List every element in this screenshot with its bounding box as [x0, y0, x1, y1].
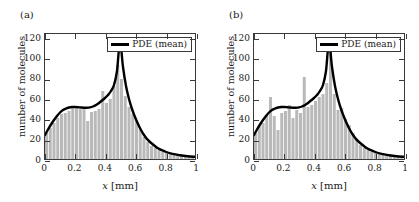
x-tick-mark: [254, 34, 255, 39]
histogram-bar: [262, 123, 265, 159]
histogram-bar: [288, 105, 291, 159]
histogram-bar: [109, 99, 112, 159]
y-tick-mark: [190, 59, 195, 60]
y-tick-labels-b: 020406080100120: [209, 33, 250, 160]
y-tick-label: 80: [1, 74, 41, 83]
histogram-bar: [83, 109, 86, 159]
x-axis-var-a: x: [102, 180, 108, 191]
histogram-bar: [280, 113, 283, 159]
chart-svg-a: [45, 34, 195, 159]
y-tick-label: 120: [1, 34, 41, 43]
histogram-bar: [265, 115, 268, 159]
histogram-bar: [322, 94, 325, 159]
histogram-bar: [86, 121, 89, 159]
y-tick-mark: [254, 100, 259, 101]
histogram-bar: [143, 137, 146, 159]
y-tick-mark: [399, 120, 404, 121]
x-tick-mark: [376, 154, 377, 159]
x-axis-var-b: x: [311, 180, 317, 191]
histogram-bar: [79, 109, 82, 159]
y-tick-label: 20: [1, 135, 41, 144]
x-tick-mark: [197, 34, 198, 39]
y-tick-mark: [254, 141, 259, 142]
chart-svg-b: [254, 34, 404, 159]
histogram-bar: [292, 118, 295, 159]
histogram-bar: [310, 105, 313, 159]
x-tick-mark: [45, 34, 46, 39]
x-tick-mark: [136, 154, 137, 159]
panel-a: (a) number of molecules 020406080100120 …: [0, 0, 210, 202]
histogram-bar: [367, 150, 370, 159]
histogram-bar: [105, 103, 108, 159]
plot-area-b: PDE (mean): [253, 33, 405, 160]
histogram-bar: [359, 145, 362, 159]
y-tick-mark: [399, 100, 404, 101]
x-tick-mark: [315, 34, 316, 39]
y-tick-mark: [190, 120, 195, 121]
histogram-bar: [120, 79, 123, 159]
histogram-bar: [113, 86, 116, 159]
histogram-bar: [131, 114, 134, 159]
histogram-bar: [378, 154, 381, 159]
histogram-bar: [64, 113, 67, 159]
histogram-bar: [284, 111, 287, 159]
y-tick-mark: [254, 59, 259, 60]
panel-b: (b) number of molecules 020406080100120 …: [209, 0, 419, 202]
histogram-bar: [71, 107, 74, 159]
histogram-bar: [258, 126, 261, 159]
y-tick-mark: [399, 59, 404, 60]
x-tick-mark: [284, 34, 285, 39]
y-tick-mark: [45, 59, 50, 60]
histogram-bar: [53, 123, 56, 159]
y-tick-label: 40: [210, 115, 250, 124]
histogram-bar: [75, 106, 78, 159]
y-tick-label: 40: [1, 115, 41, 124]
histogram-bar: [295, 110, 298, 159]
histogram-bar: [307, 107, 310, 159]
x-tick-mark: [197, 154, 198, 159]
y-tick-label: 80: [210, 74, 250, 83]
x-tick-mark: [75, 34, 76, 39]
x-axis-unit-a: [mm]: [111, 180, 138, 191]
legend-line-swatch-b: [320, 43, 338, 45]
histogram-bar: [68, 111, 71, 159]
x-tick-mark: [315, 154, 316, 159]
histogram-bar: [90, 112, 93, 159]
y-tick-mark: [45, 39, 50, 40]
legend-line-swatch-a: [111, 43, 129, 45]
x-axis-title-b: x [mm]: [253, 180, 405, 191]
y-tick-labels-a: 020406080100120: [0, 33, 41, 160]
histogram-bar: [277, 130, 280, 159]
y-tick-label: 100: [1, 54, 41, 63]
x-tick-mark: [167, 154, 168, 159]
x-tick-mark: [106, 34, 107, 39]
y-tick-mark: [190, 39, 195, 40]
y-tick-mark: [45, 80, 50, 81]
y-tick-label: 20: [210, 135, 250, 144]
histogram-bar: [363, 148, 366, 159]
histogram-bar: [355, 140, 358, 159]
x-axis-title-a: x [mm]: [44, 180, 196, 191]
legend-a: PDE (mean): [107, 37, 192, 52]
histogram-bar: [128, 107, 131, 159]
x-tick-labels-b: 00.20.40.60.81: [253, 164, 405, 176]
histogram-bar: [56, 118, 59, 159]
histogram-bar: [303, 77, 306, 159]
y-tick-mark: [45, 161, 50, 162]
histogram-bar: [60, 114, 63, 159]
histogram-bar: [337, 110, 340, 159]
plot-area-a: PDE (mean): [44, 33, 196, 160]
legend-label-b: PDE (mean): [341, 40, 396, 49]
x-tick-mark: [45, 154, 46, 159]
x-tick-mark: [376, 34, 377, 39]
x-tick-mark: [167, 34, 168, 39]
histogram-bar: [318, 97, 321, 159]
y-tick-mark: [399, 141, 404, 142]
plot-inner-a: [45, 34, 195, 159]
x-tick-mark: [345, 154, 346, 159]
y-tick-label: 60: [210, 95, 250, 104]
y-tick-label: 60: [1, 95, 41, 104]
figure-container: (a) number of molecules 020406080100120 …: [0, 0, 419, 202]
y-tick-mark: [45, 100, 50, 101]
x-tick-mark: [345, 34, 346, 39]
